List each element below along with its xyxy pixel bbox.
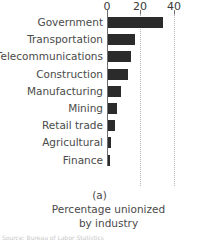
table-row: Manufacturing (0, 83, 199, 100)
bar-chart-figure: 0 20 40 Government Transportation Teleco… (0, 0, 199, 244)
category-label-transportation: Transportation (27, 31, 103, 48)
caption-line-2: by industry (0, 216, 199, 230)
source-note: Source: Bureau of Labor Statistics (2, 234, 104, 242)
table-row: Government (0, 14, 199, 31)
category-label-agricultural: Agricultural (42, 134, 103, 151)
category-label-government: Government (38, 14, 103, 31)
x-axis-tick-labels: 0 20 40 (0, 0, 199, 14)
table-row: Mining (0, 100, 199, 117)
bar-retail-trade (108, 120, 115, 131)
category-label-construction: Construction (36, 66, 103, 83)
plot-area: Government Transportation Telecommunicat… (0, 14, 199, 186)
bar-telecommunications (108, 51, 131, 62)
category-label-manufacturing: Manufacturing (27, 83, 103, 100)
category-label-telecommunications: Telecommunications (0, 48, 103, 65)
table-row: Telecommunications (0, 48, 199, 65)
table-row: Agricultural (0, 134, 199, 151)
bar-finance (108, 155, 110, 166)
category-label-retail-trade: Retail trade (42, 117, 103, 134)
table-row: Retail trade (0, 117, 199, 134)
bar-transportation (108, 34, 135, 45)
caption-line-1: Percentage unionized (0, 202, 199, 216)
table-row: Finance (0, 152, 199, 169)
table-row: Transportation (0, 31, 199, 48)
table-row: Construction (0, 66, 199, 83)
bar-manufacturing (108, 86, 121, 97)
caption-letter: (a) (0, 188, 199, 202)
bar-mining (108, 103, 117, 114)
figure-caption: (a) Percentage unionized by industry (0, 188, 199, 230)
category-label-finance: Finance (63, 152, 103, 169)
bar-construction (108, 69, 128, 80)
bar-government (108, 17, 163, 28)
bar-agricultural (108, 137, 111, 148)
category-label-mining: Mining (68, 100, 103, 117)
